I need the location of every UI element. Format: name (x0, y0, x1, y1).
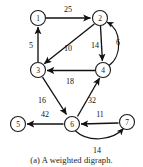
node-7-label: 7 (125, 118, 129, 127)
edge-weight-6-5: 42 (41, 110, 49, 119)
edge-weight-4-2: 6 (116, 38, 120, 47)
weighted-digraph-figure: 1 2 3 4 5 6 7 25 5 10 14 (0, 0, 143, 167)
edge-2-to-4 (101, 26, 103, 61)
edge-weight-6-4: 32 (88, 96, 96, 105)
node-6-label: 6 (70, 120, 74, 129)
edge-weight-2-4: 14 (91, 41, 99, 50)
digraph-canvas: 1 2 3 4 5 6 7 25 5 10 14 (0, 0, 143, 167)
edge-weight-4-3: 18 (66, 77, 74, 86)
figure-caption: (a) A weighted digraph. (0, 155, 143, 165)
node-2[interactable]: 2 (93, 11, 108, 26)
edge-weight-1-2: 25 (64, 5, 72, 14)
node-3[interactable]: 3 (31, 63, 46, 78)
edge-weight-7-6: 11 (96, 110, 104, 119)
node-1[interactable]: 1 (31, 11, 46, 26)
node-4-label: 4 (101, 66, 105, 75)
edge-7-to-6 (81, 123, 119, 124)
node-4[interactable]: 4 (96, 63, 111, 78)
edge-weight-2-3: 10 (64, 44, 72, 53)
node-5[interactable]: 5 (11, 117, 26, 132)
node-1-label: 1 (36, 14, 40, 23)
edge-weight-3-1: 5 (29, 41, 33, 50)
edge-weight-6-7: 14 (93, 146, 101, 155)
edge-6-to-7 (76, 129, 124, 139)
node-2-label: 2 (98, 14, 102, 23)
node-6[interactable]: 6 (65, 117, 80, 132)
node-3-label: 3 (36, 66, 40, 75)
node-5-label: 5 (16, 120, 20, 129)
edge-weight-3-6: 16 (38, 96, 46, 105)
node-7[interactable]: 7 (120, 115, 135, 130)
